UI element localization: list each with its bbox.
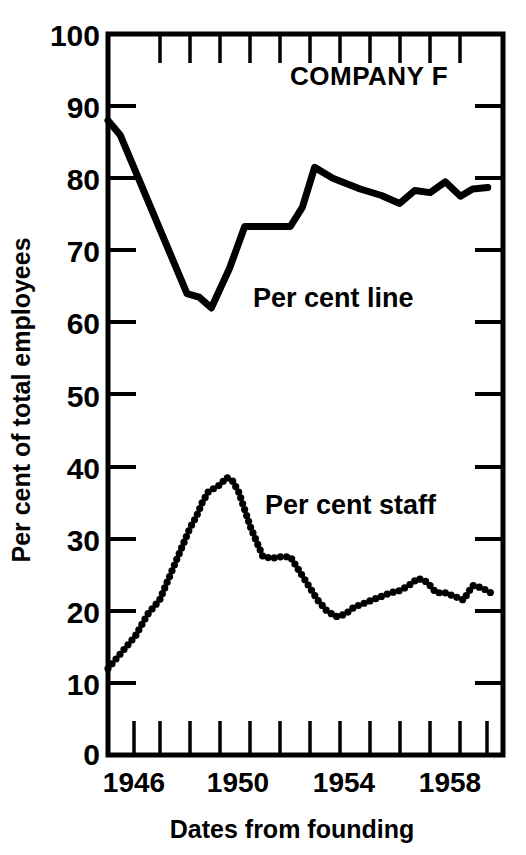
x-tick-labels: 1946 1950 1954 1958 bbox=[103, 767, 481, 798]
y-tick-label: 10 bbox=[67, 668, 100, 701]
chart-svg: Per cent of total employees 100 90 80 70… bbox=[0, 0, 526, 855]
x-axis-title: Dates from founding bbox=[170, 815, 414, 843]
plot-frame bbox=[108, 34, 503, 755]
chart-title-annotation: COMPANY F bbox=[290, 61, 448, 91]
y-tick-label: 30 bbox=[67, 524, 100, 557]
y-tick-labels: 100 90 80 70 60 50 40 30 20 10 0 bbox=[50, 19, 100, 771]
x-tick-label: 1958 bbox=[419, 767, 481, 798]
y-tick-label: 60 bbox=[67, 307, 100, 340]
x-axis-ticks-bottom bbox=[134, 721, 487, 755]
y-axis-ticks-right bbox=[475, 106, 503, 683]
y-axis-title: Per cent of total employees bbox=[7, 237, 35, 562]
y-tick-label: 50 bbox=[67, 380, 100, 413]
series-line-per-cent-line bbox=[108, 121, 488, 308]
y-tick-label: 80 bbox=[67, 163, 100, 196]
y-tick-label: 100 bbox=[50, 19, 100, 52]
y-tick-label: 70 bbox=[67, 235, 100, 268]
x-tick-label: 1954 bbox=[313, 767, 376, 798]
y-tick-label: 20 bbox=[67, 596, 100, 629]
chart-figure: Per cent of total employees 100 90 80 70… bbox=[0, 0, 526, 855]
series-label-staff: Per cent staff bbox=[265, 490, 437, 520]
x-axis-ticks-top bbox=[160, 34, 460, 63]
series-label-line: Per cent line bbox=[253, 283, 414, 313]
x-tick-label: 1946 bbox=[103, 767, 165, 798]
y-tick-label: 40 bbox=[67, 452, 100, 485]
y-tick-label: 0 bbox=[83, 738, 100, 771]
y-axis-ticks bbox=[108, 106, 136, 683]
x-tick-label: 1950 bbox=[207, 767, 269, 798]
y-tick-label: 90 bbox=[67, 91, 100, 124]
